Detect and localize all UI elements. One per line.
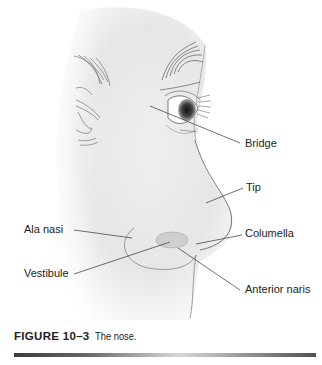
label-ala-nasi: Ala nasi [24, 223, 63, 235]
figure-number: FIGURE 10–3 [14, 330, 90, 342]
label-vestibule: Vestibule [24, 267, 69, 279]
label-tip: Tip [246, 181, 261, 193]
label-anterior-naris: Anterior naris [245, 283, 310, 295]
label-bridge: Bridge [245, 137, 277, 149]
label-columella: Columella [245, 227, 294, 239]
figure-caption-text: The nose. [95, 330, 137, 342]
nose-illustration: Bridge Tip Ala nasi Columella Vestibule … [0, 0, 322, 320]
caption-rule [14, 353, 316, 357]
figure-caption: FIGURE 10–3The nose. [14, 330, 143, 342]
